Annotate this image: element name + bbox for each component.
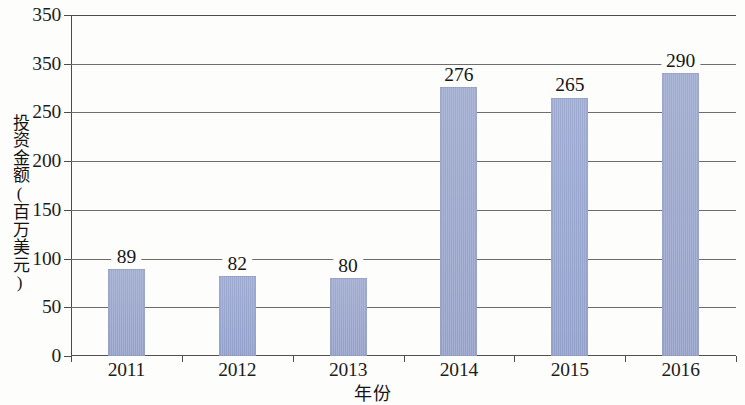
y-axis-title: 投资金额(百万美元) bbox=[2, 113, 28, 292]
x-axis-tick-mark bbox=[736, 356, 737, 362]
y-axis-tick-mark bbox=[64, 161, 71, 162]
x-axis-tick-mark bbox=[293, 356, 294, 362]
plot-frame-left-border bbox=[71, 15, 72, 356]
x-axis-tick-label: 2015 bbox=[551, 359, 589, 381]
y-axis-tick-label: 350 bbox=[32, 53, 61, 75]
x-axis-tick-label: 2014 bbox=[440, 359, 478, 381]
y-axis-tick-mark bbox=[64, 112, 71, 113]
gridline bbox=[71, 307, 736, 308]
gridline bbox=[71, 112, 736, 113]
bar-value-label: 290 bbox=[661, 51, 700, 71]
y-axis-tick-mark bbox=[64, 307, 71, 308]
x-axis-tick-mark bbox=[404, 356, 405, 362]
y-axis-tick-mark bbox=[64, 259, 71, 260]
x-axis-title: 年份 bbox=[0, 379, 745, 405]
x-axis-tick-mark bbox=[71, 356, 72, 362]
y-axis-tick-label: 200 bbox=[32, 150, 61, 172]
x-axis-tick-mark bbox=[182, 356, 183, 362]
y-axis-tick-mark bbox=[64, 15, 71, 16]
y-axis-tick-label: 350 bbox=[32, 4, 61, 26]
y-axis-tick-label: 0 bbox=[51, 345, 61, 367]
x-axis-tick-label: 2011 bbox=[108, 359, 145, 381]
x-axis-tick-mark bbox=[514, 356, 515, 362]
y-axis-tick-label: 150 bbox=[32, 199, 61, 221]
bar-value-label: 276 bbox=[439, 65, 478, 85]
x-axis-tick-label: 2013 bbox=[329, 359, 367, 381]
bar-2012: 82 bbox=[219, 276, 256, 356]
y-axis-tick-label: 50 bbox=[42, 296, 61, 318]
gridline bbox=[71, 161, 736, 162]
bar-value-label: 82 bbox=[223, 254, 253, 274]
bar-2016: 290 bbox=[662, 73, 699, 356]
y-axis-tick-mark bbox=[64, 64, 71, 65]
x-axis-tick-label: 2016 bbox=[661, 359, 699, 381]
bar-2011: 89 bbox=[108, 269, 145, 356]
y-axis-tick-label: 100 bbox=[32, 248, 61, 270]
y-axis-tick-mark bbox=[64, 356, 71, 357]
y-axis-tick-mark bbox=[64, 210, 71, 211]
gridline bbox=[71, 64, 736, 65]
gridline bbox=[71, 259, 736, 260]
bar-value-label: 89 bbox=[112, 247, 142, 267]
gridline bbox=[71, 210, 736, 211]
y-axis-tick-label: 250 bbox=[32, 101, 61, 123]
bar-value-label: 80 bbox=[333, 256, 363, 276]
x-axis-tick-mark bbox=[625, 356, 626, 362]
bar-2013: 80 bbox=[330, 278, 367, 356]
bar-chart: 投资金额(百万美元) 050100150200250350350 8982802… bbox=[0, 0, 745, 405]
x-axis-tick-label: 2012 bbox=[218, 359, 256, 381]
plot-area: 050100150200250350350 898280276265290 bbox=[71, 15, 736, 356]
bar-value-label: 265 bbox=[550, 75, 589, 95]
bar-2015: 265 bbox=[551, 98, 588, 356]
plot-frame-top-border bbox=[71, 15, 736, 16]
bar-2014: 276 bbox=[440, 87, 477, 356]
